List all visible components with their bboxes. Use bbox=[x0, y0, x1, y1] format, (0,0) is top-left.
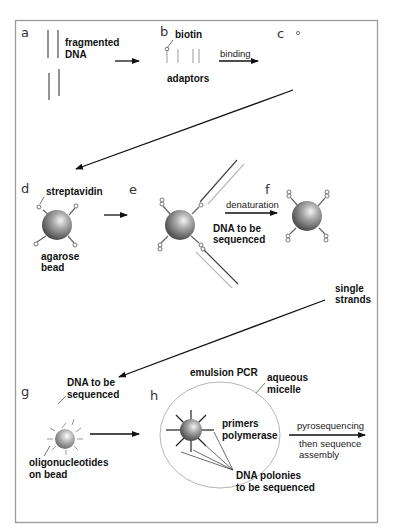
biotin-icon bbox=[296, 31, 299, 34]
denaturation-arrow: f denaturation bbox=[225, 182, 279, 213]
panel-d: d streptavidin agarose bead bbox=[21, 181, 127, 273]
label-denaturation: denaturation bbox=[226, 199, 279, 210]
panel-b: b biotin adaptors bbox=[160, 24, 210, 84]
label-dna-polonies: DNA polonies bbox=[236, 470, 302, 481]
streptavidin-icon bbox=[34, 242, 38, 246]
label-aqueous-micelle: aqueous bbox=[267, 372, 309, 383]
sequencing-diagram: a fragmented DNA b biotin adaptors bindi… bbox=[0, 0, 395, 530]
label-dna-to-be-sequenced: DNA to be bbox=[213, 223, 261, 234]
label-pyrosequencing: pyrosequencing bbox=[297, 420, 364, 431]
panel-c: c bbox=[277, 26, 305, 88]
label-biotin: biotin bbox=[175, 29, 202, 40]
label-single-strands: single bbox=[335, 283, 364, 294]
label-dna-to-be-sequenced-2: sequenced bbox=[67, 389, 119, 400]
pyrosequencing-arrow: pyrosequencing then sequence assembly bbox=[289, 420, 365, 460]
panel-letter-b: b bbox=[160, 24, 168, 39]
label-polymerase: polymerase bbox=[222, 430, 278, 441]
panel-letter-d: d bbox=[21, 181, 29, 196]
label-adaptors: adaptors bbox=[167, 73, 210, 84]
panel-letter-h: h bbox=[150, 388, 158, 403]
label-then-sequence: then sequence bbox=[299, 438, 361, 449]
label-fragmented-dna: fragmented bbox=[65, 37, 119, 48]
label-fragmented-dna-2: DNA bbox=[65, 49, 87, 60]
panel-letter-g: g bbox=[21, 384, 29, 399]
label-aqueous-micelle-2: micelle bbox=[267, 384, 301, 395]
label-binding: binding bbox=[220, 48, 251, 59]
label-primers: primers bbox=[222, 418, 259, 429]
biotin-pointer bbox=[167, 40, 173, 48]
agarose-bead-icon bbox=[292, 201, 322, 231]
agarose-bead-icon bbox=[42, 210, 72, 240]
label-dna-to-be-sequenced: DNA to be bbox=[67, 377, 115, 388]
panel-letter-f: f bbox=[265, 182, 270, 197]
label-single-strands-2: strands bbox=[335, 294, 372, 305]
label-agarose-bead: agarose bbox=[41, 251, 80, 262]
panel-letter-a: a bbox=[21, 25, 29, 40]
panel-f: single strands bbox=[286, 137, 372, 305]
streptavidin-icon bbox=[37, 205, 41, 209]
panel-g: g DNA to be sequenced oligonucleotides o… bbox=[21, 373, 139, 480]
panel-letter-e: e bbox=[129, 182, 137, 197]
biotin-icon bbox=[165, 47, 169, 51]
label-agarose-bead-2: bead bbox=[41, 262, 64, 273]
bead-icon bbox=[180, 419, 202, 441]
panel-letter-c: c bbox=[277, 26, 284, 41]
label-assembly: assembly bbox=[299, 449, 339, 460]
streptavidin-icon bbox=[73, 243, 77, 247]
label-emulsion-pcr: emulsion PCR bbox=[190, 367, 259, 378]
agarose-bead-icon bbox=[165, 210, 195, 240]
label-dna-polonies-2: to be sequenced bbox=[236, 482, 315, 493]
panel-e: e DNA to be sequenced bbox=[129, 145, 265, 300]
streptavidin-pointer bbox=[40, 197, 44, 204]
arrow-to-d-icon bbox=[76, 90, 293, 169]
streptavidin-icon bbox=[74, 204, 78, 208]
panel-a: a fragmented DNA bbox=[21, 25, 139, 100]
label-streptavidin: streptavidin bbox=[46, 186, 103, 197]
bead-icon bbox=[55, 429, 75, 449]
arrow-to-g-icon bbox=[119, 300, 325, 377]
panel-h: h emulsion PCR aqueous micelle primers p… bbox=[150, 367, 315, 493]
label-dna-to-be-sequenced-2: sequenced bbox=[213, 234, 265, 245]
label-oligonucleotides: oligonucleotides bbox=[29, 457, 109, 468]
binding-arrow: binding bbox=[219, 48, 258, 61]
label-oligonucleotides-2: on bead bbox=[29, 469, 67, 480]
